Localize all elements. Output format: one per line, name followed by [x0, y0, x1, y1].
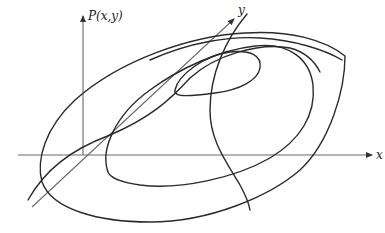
s-level-curve	[28, 47, 320, 200]
x-axis-label: x	[376, 149, 383, 161]
p-axis-label: P(x,y)	[88, 10, 123, 22]
outer-level-curve	[40, 32, 345, 222]
upper-arc-curve	[150, 38, 342, 60]
y-axis-label: y	[238, 4, 245, 16]
diagram-svg	[0, 0, 385, 233]
inner-level-curve	[175, 52, 260, 96]
diagram-canvas: P(x,y) y x	[0, 0, 385, 233]
vertical-level-curve	[210, 14, 250, 210]
